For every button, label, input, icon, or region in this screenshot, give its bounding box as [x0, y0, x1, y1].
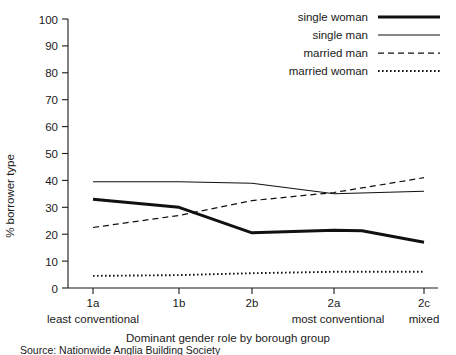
- y-tick-label: 10: [45, 256, 58, 268]
- y-tick-label: 50: [45, 148, 58, 160]
- x-tick-label-2a: 2a: [328, 297, 341, 309]
- x-axis-ticks: [93, 288, 424, 294]
- series-line-married-woman: [93, 272, 424, 276]
- legend-label-married-man: married man: [303, 47, 368, 59]
- chart-svg: 100 90 80 70 60 50 40 30 20 10 0: [0, 0, 456, 355]
- y-axis-title: % borrower type: [4, 154, 16, 238]
- y-tick-label: 0: [52, 283, 58, 295]
- x-axis-tick-labels: 1a 1b 2b 2a 2c: [87, 297, 431, 309]
- y-tick-label: 100: [39, 14, 58, 26]
- series-line-single-man: [93, 182, 424, 194]
- x-sublabel-most-conventional: most conventional: [292, 313, 385, 325]
- chart-figure: 100 90 80 70 60 50 40 30 20 10 0: [0, 0, 456, 355]
- x-tick-label-2c: 2c: [418, 297, 430, 309]
- y-tick-label: 80: [45, 67, 58, 79]
- chart-canvas: 100 90 80 70 60 50 40 30 20 10 0: [0, 0, 456, 355]
- y-axis-tick-labels: 100 90 80 70 60 50 40 30 20 10 0: [39, 14, 58, 295]
- y-axis-ticks: [62, 19, 68, 288]
- y-tick-label: 30: [45, 202, 58, 214]
- y-tick-label: 70: [45, 94, 58, 106]
- legend-label-married-woman: married woman: [289, 65, 368, 77]
- y-tick-label: 60: [45, 121, 58, 133]
- y-tick-label: 20: [45, 229, 58, 241]
- source-note: Source: Nationwide Anglia Building Socie…: [20, 344, 221, 355]
- x-sublabel-least-conventional: least conventional: [47, 313, 139, 325]
- y-tick-label: 90: [45, 40, 58, 52]
- x-axis-title: Dominant gender role by borough group: [126, 332, 330, 344]
- legend-label-single-woman: single woman: [298, 11, 368, 23]
- y-tick-label: 40: [45, 175, 58, 187]
- legend-label-single-man: single man: [312, 29, 368, 41]
- x-tick-label-2b: 2b: [246, 297, 259, 309]
- x-tick-label-1a: 1a: [87, 297, 100, 309]
- x-tick-label-1b: 1b: [173, 297, 186, 309]
- x-sublabel-mixed: mixed: [409, 313, 440, 325]
- chart-legend: single woman single man married man marr…: [289, 11, 440, 77]
